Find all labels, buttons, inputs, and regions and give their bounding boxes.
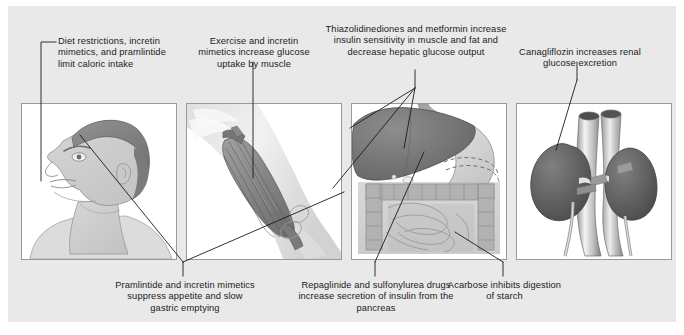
leader-tzd-to-muscle [333,88,415,188]
leader-repaglinide-to-pancreas [375,152,424,262]
callout-tzd-metformin-text: Thiazolidinediones and metformin increas… [326,24,507,57]
leader-canagliflozin-to-kidney [556,80,577,150]
leader-diet-restrictions [41,42,56,181]
leader-tzd-to-muscle-2 [350,88,415,128]
leader-acarbose-to-intestine [455,232,503,262]
callout-exercise-muscle-uptake-text: Exercise and incretin mimetics increase … [198,36,310,69]
callout-diet-restrictions: Diet restrictions, incretin mimetics, an… [58,36,178,70]
leader-tzd-to-liver [404,88,415,148]
callout-exercise-muscle-uptake: Exercise and incretin mimetics increase … [191,36,317,70]
callout-canagliflozin-kidney: Canagliflozin increases renal glucose ex… [515,47,645,70]
callout-canagliflozin-kidney-text: Canagliflozin increases renal glucose ex… [519,47,641,68]
callout-pramlintide-appetite: Pramlintide and incretin mimetics suppre… [112,280,258,314]
callout-diet-restrictions-text: Diet restrictions, incretin mimetics, an… [58,36,166,69]
callout-acarbose-starch: Acarbose inhibits digestion of starch [447,280,562,303]
callout-acarbose-starch-text: Acarbose inhibits digestion of starch [448,280,561,301]
leader-pramlintide-to-muscle [183,192,344,262]
figure-root: Diet restrictions, incretin mimetics, an… [0,0,684,335]
leader-pramlintide-to-head [80,135,183,262]
callout-tzd-metformin: Thiazolidinediones and metformin increas… [322,24,510,58]
callout-repaglinide-sulfonylurea-text: Repaglinide and sulfonylurea drugs incre… [298,280,453,313]
callout-pramlintide-appetite-text: Pramlintide and incretin mimetics suppre… [115,280,255,313]
callout-repaglinide-sulfonylurea: Repaglinide and sulfonylurea drugs incre… [288,280,464,314]
